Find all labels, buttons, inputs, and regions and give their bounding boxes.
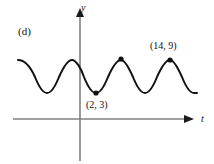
maximum-point-marker-unlabeled (118, 56, 123, 61)
panel-label: (d) (18, 26, 31, 37)
figure-panel: (d) y t (2, 3) (14, 9) (0, 0, 214, 164)
plot-canvas (0, 0, 214, 164)
minimum-point-label: (2, 3) (86, 100, 108, 110)
sinusoid-curve (18, 60, 197, 93)
y-axis-label: y (81, 3, 85, 13)
t-axis-arrowhead (184, 115, 194, 123)
t-axis-label: t (201, 114, 204, 124)
maximum-point-marker-labeled (167, 57, 172, 62)
maximum-point-label: (14, 9) (150, 41, 177, 51)
minimum-point-marker (93, 90, 98, 95)
